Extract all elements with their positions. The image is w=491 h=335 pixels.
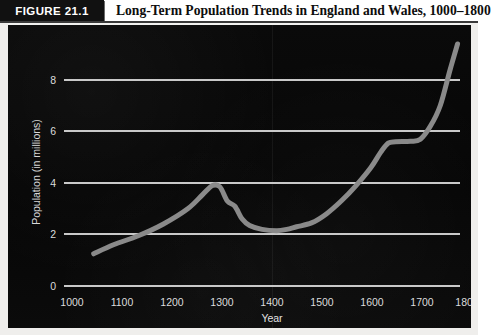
y-tick-2: 2 <box>34 228 56 240</box>
header-rule <box>0 21 478 23</box>
gridlines <box>64 80 460 286</box>
x-tick-1200: 1200 <box>150 296 194 308</box>
x-tick-1700: 1700 <box>400 296 444 308</box>
population-trend-line <box>94 44 458 254</box>
x-tick-1600: 1600 <box>350 296 394 308</box>
y-tick-8: 8 <box>34 74 56 86</box>
x-tick-1500: 1500 <box>300 296 344 308</box>
y-tick-0: 0 <box>34 280 56 292</box>
page-margin-bottom <box>0 328 478 335</box>
figure-title: Long-Term Population Trends in England a… <box>105 0 491 22</box>
x-tick-1400: 1400 <box>250 296 294 308</box>
page-margin-right <box>471 23 478 330</box>
page-margin-left <box>0 23 8 330</box>
chart-plot-area <box>8 25 471 328</box>
y-tick-6: 6 <box>34 125 56 137</box>
chart-panel: Population (in millions) 8 6 4 2 0 1000 … <box>8 25 471 328</box>
figure-number-badge: FIGURE 21.1 <box>0 0 104 22</box>
y-tick-4: 4 <box>34 177 56 189</box>
x-tick-1000: 1000 <box>50 296 94 308</box>
y-axis-title: Population (in millions) <box>30 97 42 247</box>
figure-header: FIGURE 21.1 Long-Term Population Trends … <box>0 0 478 22</box>
x-tick-1800: 1800 <box>445 296 471 308</box>
x-axis-title: Year <box>242 312 302 324</box>
x-tick-1300: 1300 <box>200 296 244 308</box>
x-tick-1100: 1100 <box>100 296 144 308</box>
